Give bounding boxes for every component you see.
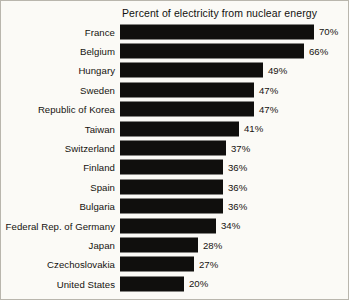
bar [120, 102, 254, 117]
bar [120, 160, 223, 175]
bar-value-label: 41% [244, 124, 263, 134]
bar-row: Federal Rep. of Germany34% [1, 216, 349, 235]
bar-and-value: 66% [120, 44, 328, 59]
bar [120, 44, 304, 59]
bar-and-value: 70% [120, 24, 338, 39]
bar-value-label: 34% [221, 221, 240, 231]
bar-and-value: 28% [120, 237, 222, 252]
bar [120, 179, 223, 194]
bar-row: Bulgaria36% [1, 197, 349, 216]
category-label: France [85, 26, 115, 37]
category-label: Japan [89, 239, 115, 250]
bar [120, 121, 239, 136]
category-label: United States [57, 278, 115, 289]
bar-value-label: 20% [189, 279, 208, 289]
bar [120, 218, 216, 233]
category-label: Switzerland [65, 143, 115, 154]
bar [120, 237, 198, 252]
bar-value-label: 49% [268, 66, 287, 76]
category-label: Bulgaria [79, 201, 115, 212]
chart-title: Percent of electricity from nuclear ener… [122, 7, 317, 19]
category-label: Finland [83, 162, 115, 173]
bar-row: United States20% [1, 274, 349, 293]
bar-and-value: 34% [120, 218, 240, 233]
bar-and-value: 49% [120, 63, 287, 78]
bar [120, 82, 254, 97]
bar-value-label: 47% [259, 104, 278, 114]
bar-and-value: 41% [120, 121, 263, 136]
category-label: Spain [90, 181, 115, 192]
bar [120, 199, 223, 214]
bar-value-label: 66% [309, 46, 328, 56]
bar-and-value: 27% [120, 257, 218, 272]
bar-row: Finland36% [1, 158, 349, 177]
bar [120, 24, 314, 39]
bar-row: Taiwan41% [1, 119, 349, 138]
bar-value-label: 47% [259, 85, 278, 95]
bar-row: Japan28% [1, 235, 349, 254]
bar-row: Switzerland37% [1, 138, 349, 157]
bar-value-label: 36% [228, 201, 247, 211]
bar-row: Republic of Korea47% [1, 100, 349, 119]
bar-and-value: 47% [120, 102, 278, 117]
category-label: Czechoslovakia [47, 259, 115, 270]
bar [120, 63, 263, 78]
bar-and-value: 20% [120, 276, 208, 291]
bar-value-label: 28% [203, 240, 222, 250]
bar [120, 141, 226, 156]
bar-row: France70% [1, 22, 349, 41]
category-label: Belgium [80, 46, 115, 57]
chart-plot-area: France70%Belgium66%Hungary49%Sweden47%Re… [1, 22, 349, 293]
category-label: Taiwan [85, 123, 115, 134]
bar-chart: Percent of electricity from nuclear ener… [0, 0, 349, 300]
bar [120, 257, 194, 272]
bar-value-label: 36% [228, 163, 247, 173]
bar-row: Spain36% [1, 177, 349, 196]
bar-value-label: 36% [228, 182, 247, 192]
bar-row: Sweden47% [1, 80, 349, 99]
bar-value-label: 70% [319, 27, 338, 37]
bar-row: Hungary49% [1, 61, 349, 80]
category-label: Hungary [78, 65, 115, 76]
bar [120, 276, 184, 291]
category-label: Federal Rep. of Germany [6, 220, 115, 231]
category-label: Sweden [80, 84, 115, 95]
bar-and-value: 36% [120, 179, 247, 194]
bar-value-label: 37% [231, 143, 250, 153]
category-label: Republic of Korea [38, 104, 115, 115]
bar-row: Belgium66% [1, 41, 349, 60]
bar-and-value: 37% [120, 141, 250, 156]
bar-value-label: 27% [199, 260, 218, 270]
bar-and-value: 36% [120, 160, 247, 175]
bar-and-value: 47% [120, 82, 278, 97]
bar-and-value: 36% [120, 199, 247, 214]
bar-row: Czechoslovakia27% [1, 255, 349, 274]
